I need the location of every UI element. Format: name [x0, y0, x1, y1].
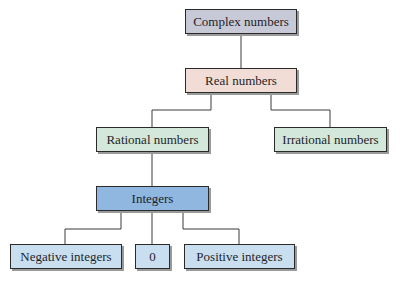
node-rational: Rational numbers: [96, 127, 209, 152]
node-complex: Complex numbers: [185, 9, 297, 34]
node-negative: Negative integers: [10, 244, 122, 269]
edge-real-irrational: [271, 93, 330, 127]
edge-real-rational: [152, 93, 211, 127]
node-positive: Positive integers: [184, 244, 295, 269]
node-zero: 0: [135, 244, 170, 269]
node-real: Real numbers: [185, 68, 297, 93]
edge-integers-negative: [65, 211, 121, 244]
edge-integers-positive: [183, 211, 239, 244]
node-integers: Integers: [96, 186, 209, 211]
node-irrational: Irrational numbers: [274, 127, 387, 152]
